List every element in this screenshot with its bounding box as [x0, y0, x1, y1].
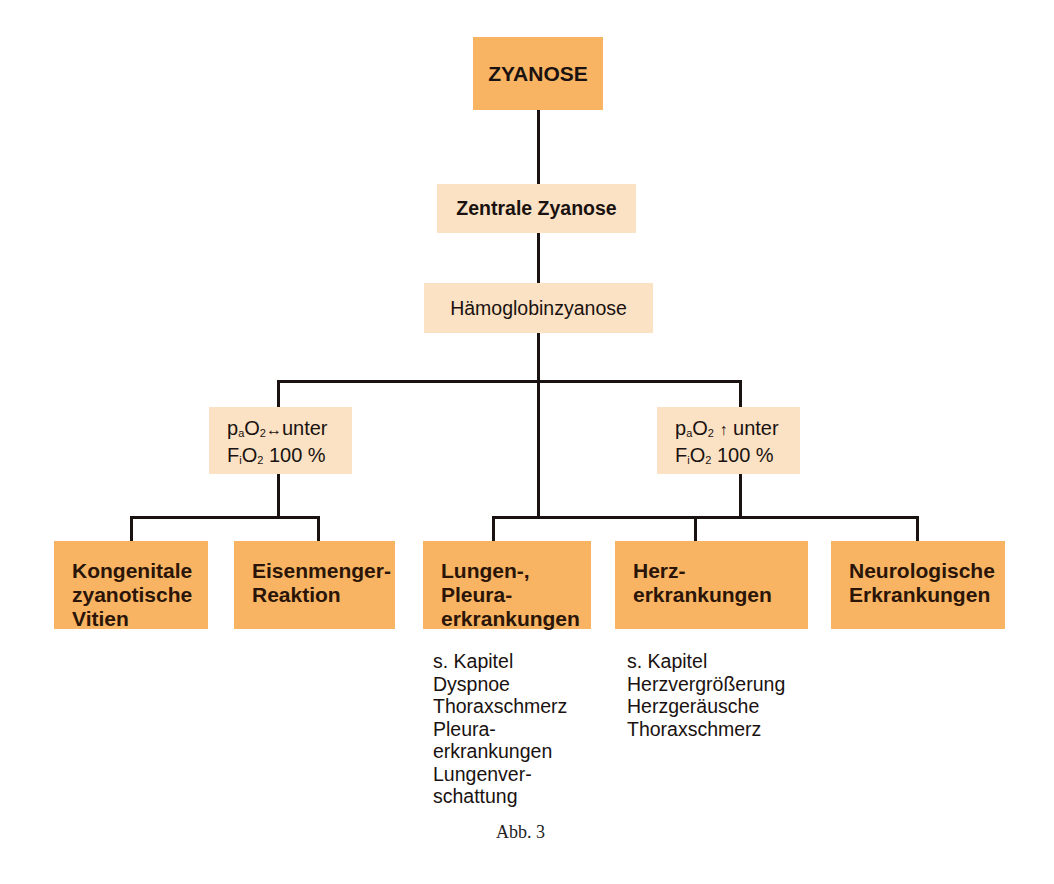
connector-neuro-horizontal: [770, 516, 919, 519]
node-zentrale-zyanose: Zentrale Zyanose: [437, 184, 636, 233]
node-zentrale-zyanose-label: Zentrale Zyanose: [456, 197, 616, 220]
node-zyanose-label: ZYANOSE: [488, 62, 588, 86]
connector-to-neurologische-drop: [916, 516, 919, 541]
node-zyanose: ZYANOSE: [473, 37, 603, 110]
node-herzerkrankungen: Herz- erkrankungen: [615, 541, 808, 629]
node-neurologische-erkrankungen: Neurologische Erkrankungen: [831, 541, 1005, 629]
condition-line-2: FiO2 100 %: [675, 444, 800, 471]
node-condition-pao2-increased: paO2 ↑ unter FiO2 100 %: [657, 407, 800, 474]
condition-line-1: paO2↔unter: [227, 417, 352, 444]
arrow-both-icon: ↔: [266, 421, 282, 438]
node-haemoglobinzyanose: Hämoglobinzyanose: [424, 283, 653, 333]
condition-line-2: FiO2 100 %: [227, 444, 352, 471]
connector-right-group-horizontal: [492, 516, 773, 519]
node-eisenmenger-reaktion: Eisenmenger- Reaktion: [234, 541, 395, 629]
node-kongenitale-vitien: Kongenitale zyanotische Vitien: [54, 541, 208, 629]
connector-to-condition-left: [277, 380, 280, 407]
connector-left-group-horizontal: [130, 516, 320, 519]
node-lungen-pleura-erkrankungen: Lungen-, Pleura- erkrankungen: [423, 541, 591, 629]
node-haemoglobinzyanose-label: Hämoglobinzyanose: [450, 297, 627, 320]
connector-haemoglobin-down: [537, 333, 540, 517]
note-herz-references: s. Kapitel Herzvergrößerung Herzgeräusch…: [627, 650, 785, 740]
connector-condition-right-down: [739, 474, 742, 517]
figure-caption: Abb. 3: [496, 822, 545, 843]
arrow-up-icon: ↑: [720, 421, 728, 438]
condition-line-1: paO2 ↑ unter: [675, 417, 800, 444]
connector-condition-left-down: [277, 474, 280, 517]
connector-to-kongenitale: [130, 516, 133, 541]
connector-root-to-zentrale: [537, 110, 540, 184]
node-condition-pao2-unchanged: paO2↔unter FiO2 100 %: [209, 407, 352, 474]
connector-branch-horizontal: [277, 380, 742, 383]
connector-to-condition-right: [739, 380, 742, 407]
note-lungen-references: s. Kapitel Dyspnoe Thoraxschmerz Pleura-…: [433, 650, 567, 808]
connector-to-lungen: [492, 516, 495, 541]
connector-zentrale-to-haemoglobin: [537, 233, 540, 283]
connector-to-herz: [694, 516, 697, 541]
connector-to-eisenmenger: [317, 516, 320, 541]
